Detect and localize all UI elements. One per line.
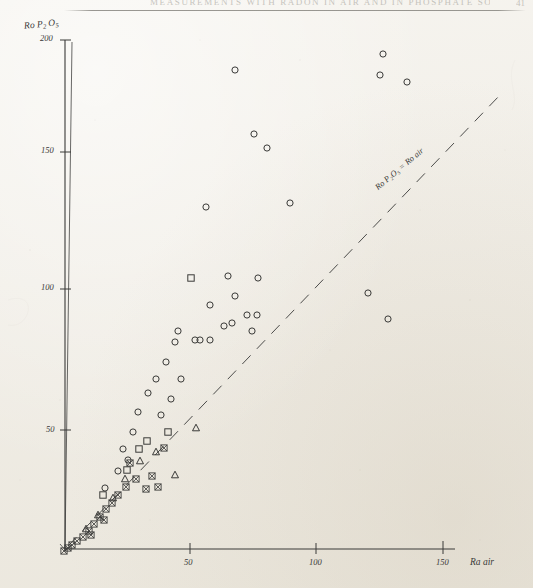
scatter-plot (0, 0, 533, 588)
series-crossed-square (61, 445, 167, 554)
x-tick-label-50: 50 (184, 557, 193, 567)
y-axis-label-sub2: 5 (55, 21, 59, 28)
y-tick-label-200: 200 (40, 33, 53, 43)
axis-ticks (60, 40, 443, 554)
y-tick-label-100: 100 (41, 282, 54, 292)
series-open-square (100, 275, 194, 498)
x-tick-label-100: 100 (309, 557, 322, 567)
series-open-triangle (83, 424, 200, 532)
series-open-circle (102, 51, 410, 491)
y-axis-label-prefix: Ro P (24, 19, 44, 31)
x-tick-label-150: 150 (436, 557, 449, 567)
y-tick-label-150: 150 (41, 145, 54, 155)
x-axis-label: Ra air (470, 557, 494, 567)
y-tick-label-50: 50 (46, 424, 55, 434)
